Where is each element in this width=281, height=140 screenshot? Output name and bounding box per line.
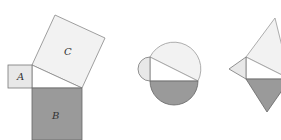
label-b: B [51, 110, 59, 121]
semicircles-figure [138, 42, 201, 105]
triangle-a [229, 57, 246, 79]
semicircle-b [150, 81, 198, 105]
label-a: A [16, 71, 24, 82]
semicircle-a [138, 57, 150, 81]
triangles-figure [229, 18, 281, 112]
squares-figure: A B C [8, 15, 105, 140]
triangle-b [246, 79, 281, 112]
label-c: C [64, 46, 72, 57]
pythagoras-diagram: A B C [0, 0, 281, 140]
